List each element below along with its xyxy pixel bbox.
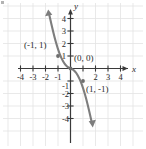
point-label-1-neg1: (1, -1) bbox=[86, 84, 109, 94]
x-axis-label: x bbox=[131, 64, 136, 74]
x-tick-label: 3 bbox=[106, 72, 110, 82]
point-1-neg1 bbox=[81, 79, 85, 83]
y-tick-label: 3 bbox=[62, 26, 66, 36]
y-tick-label: 1 bbox=[62, 51, 66, 61]
cubic-function-plot: y x -4 -3 -2 -1 2 3 4 4 3 2 1 -1 -2 -3 -… bbox=[0, 0, 146, 149]
y-axis-label: y bbox=[73, 1, 78, 11]
curve-arrow-bottom bbox=[89, 120, 96, 128]
y-tick-label: -2 bbox=[62, 89, 69, 99]
x-tick-label: -1 bbox=[54, 72, 61, 82]
y-tick-label: 2 bbox=[62, 39, 66, 49]
point-label-neg1-1: (-1, 1) bbox=[24, 40, 47, 50]
point-neg1-1 bbox=[56, 54, 60, 58]
y-tick-label: -3 bbox=[62, 101, 69, 111]
x-axis-arrow bbox=[123, 66, 129, 71]
x-tick-label: -2 bbox=[42, 72, 49, 82]
x-tick-label: 2 bbox=[93, 72, 97, 82]
x-tick-label: -4 bbox=[17, 72, 25, 82]
x-tick-label: -3 bbox=[29, 72, 36, 82]
graph-figure: y x -4 -3 -2 -1 2 3 4 4 3 2 1 -1 -2 -3 -… bbox=[0, 0, 146, 149]
point-0-0 bbox=[69, 67, 73, 71]
curve-arrow-top bbox=[45, 10, 52, 17]
y-tick-label: -4 bbox=[62, 114, 70, 124]
y-axis-arrow bbox=[68, 9, 73, 15]
x-tick-label: 4 bbox=[118, 72, 123, 82]
scan-artifact bbox=[1, 1, 4, 4]
point-label-origin: (0, 0) bbox=[74, 53, 94, 63]
